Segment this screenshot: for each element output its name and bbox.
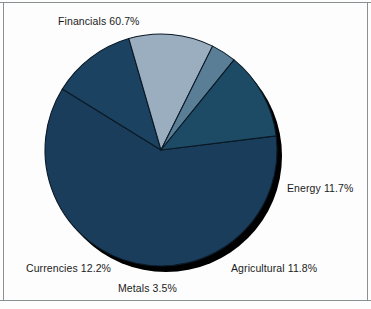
slice-label-metals: Metals 3.5%: [118, 282, 177, 294]
slice-label-energy: Energy 11.7%: [287, 182, 353, 194]
slice-label-financials: Financials 60.7%: [58, 15, 140, 27]
pie-slice-group: [45, 34, 277, 266]
pie-chart-figure: Financials 60.7% Energy 11.7% Agricultur…: [0, 0, 371, 309]
slice-label-currencies: Currencies 12.2%: [26, 262, 111, 274]
slice-label-agricultural: Agricultural 11.8%: [231, 262, 317, 274]
